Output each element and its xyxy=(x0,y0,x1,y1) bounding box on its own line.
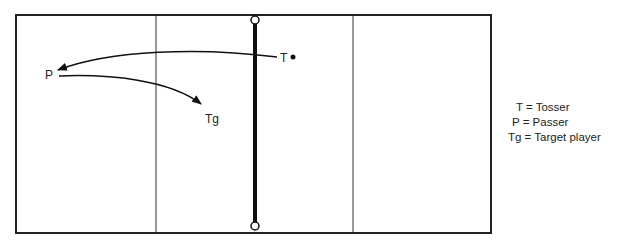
tosser-dot-icon xyxy=(291,55,296,60)
target-player-label: Tg xyxy=(205,112,219,126)
legend-item-tosser: T = Tosser xyxy=(508,100,618,115)
net-post-top-icon xyxy=(251,16,259,24)
legend: T = Tosser P = Passer Tg = Target player xyxy=(508,100,618,145)
legend-item-passer: P = Passer xyxy=(508,115,618,130)
tosser-label: T xyxy=(280,51,288,65)
net-post-bottom-icon xyxy=(251,222,259,230)
toss-path-arrow xyxy=(58,51,277,70)
passer-label: P xyxy=(45,68,53,82)
legend-item-target: Tg = Target player xyxy=(508,130,618,145)
pass-path-arrow xyxy=(59,76,201,104)
